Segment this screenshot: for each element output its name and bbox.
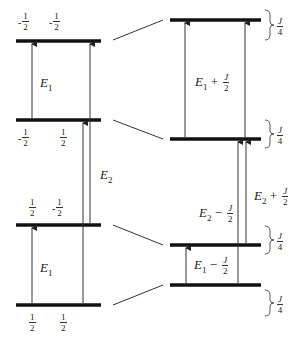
spin-label: -12 — [18, 128, 29, 148]
spin-label: 12 — [28, 313, 36, 333]
spin-label: -12 — [18, 12, 29, 32]
e1-plus-half-j-label: E1 + J2 — [195, 73, 229, 93]
e2-label: E2 — [100, 168, 112, 185]
spin-label: -12 — [49, 12, 60, 32]
energy-level-diagram — [0, 0, 300, 344]
brace-label-j-over-4: J4 — [277, 295, 283, 315]
e1-lower-label: E1 — [40, 261, 52, 278]
brace-label-j-over-4: J4 — [277, 232, 283, 252]
spin-label: -12 — [52, 198, 63, 218]
brace-label-j-over-4: J4 — [277, 17, 283, 37]
e1-upper-label: E1 — [40, 76, 52, 93]
spin-label: 12 — [59, 128, 67, 148]
level-connectors — [113, 20, 163, 305]
e1-minus-half-j-label: E1 − J2 — [194, 256, 228, 276]
e2-minus-half-j-label: E2 − J2 — [199, 204, 233, 224]
spin-label: 12 — [28, 198, 36, 218]
e2-plus-half-j-label: E2 + J2 — [254, 187, 288, 207]
right-energy-levels — [170, 20, 261, 285]
splitting-braces — [265, 10, 274, 316]
spin-label: 12 — [59, 313, 67, 333]
brace-label-j-over-4: J4 — [277, 126, 283, 146]
left-energy-levels — [16, 41, 101, 305]
